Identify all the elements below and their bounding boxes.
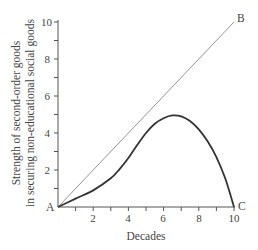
y-tick-label-2: 2 bbox=[45, 164, 51, 176]
y-tick-label-10: 10 bbox=[41, 16, 53, 28]
point-label-b: B bbox=[237, 12, 245, 24]
chart: 2 4 6 8 10 2 4 6 8 10 Decades Strength o… bbox=[0, 0, 258, 250]
x-tick-label-4: 4 bbox=[125, 212, 131, 224]
x-tick-label-10: 10 bbox=[229, 212, 241, 224]
point-label-c: C bbox=[238, 200, 246, 212]
y-axis-title-line2: in securing non-educational social goods bbox=[24, 19, 37, 207]
x-tick-label-2: 2 bbox=[90, 212, 96, 224]
y-axis-title-line1: Strength of second-order goods bbox=[10, 40, 23, 185]
y-tick-label-4: 4 bbox=[45, 127, 51, 139]
x-ticks bbox=[76, 207, 234, 211]
y-tick-label-8: 8 bbox=[45, 53, 51, 65]
x-tick-label-8: 8 bbox=[196, 212, 202, 224]
x-axis-title: Decades bbox=[127, 230, 166, 242]
y-ticks bbox=[54, 22, 58, 189]
reference-line-ab bbox=[58, 22, 234, 207]
point-label-a: A bbox=[46, 201, 55, 213]
y-tick-label-6: 6 bbox=[45, 90, 51, 102]
x-tick-label-6: 6 bbox=[160, 212, 166, 224]
curve-ac bbox=[58, 115, 234, 207]
